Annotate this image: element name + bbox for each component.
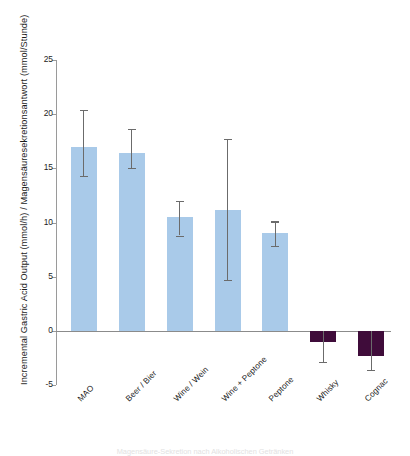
y-tick-label: 0 bbox=[48, 325, 53, 335]
y-tick-label: 5 bbox=[48, 271, 53, 281]
y-tick-label: 25 bbox=[44, 54, 53, 64]
x-axis-label: Beer / Bier bbox=[124, 369, 158, 403]
error-bar bbox=[83, 110, 84, 176]
error-bar-cap bbox=[367, 370, 375, 371]
x-axis-label: Wine / Wein bbox=[172, 365, 210, 403]
x-axis-label: Whisky bbox=[315, 378, 340, 403]
bar bbox=[119, 153, 145, 331]
x-axis-label: Cognac bbox=[363, 377, 390, 404]
y-axis-label: Incremental Gastric Acid Output (mmol/h)… bbox=[19, 45, 29, 385]
error-bar-cap bbox=[271, 246, 279, 247]
y-axis-line bbox=[56, 60, 57, 385]
error-bar-cap bbox=[128, 168, 136, 169]
error-bar-cap bbox=[224, 280, 232, 281]
x-axis-label: Peptone bbox=[267, 375, 295, 403]
error-bar-cap bbox=[80, 176, 88, 177]
chart-container: Incremental Gastric Acid Output (mmol/h)… bbox=[0, 0, 410, 456]
error-bar bbox=[179, 201, 180, 236]
error-bar bbox=[227, 139, 228, 280]
y-tick-label: 20 bbox=[44, 108, 53, 118]
error-bar bbox=[275, 221, 276, 246]
error-bar-cap bbox=[176, 201, 184, 202]
error-bar-cap bbox=[128, 129, 136, 130]
zero-baseline bbox=[56, 331, 391, 332]
bar bbox=[262, 233, 288, 331]
y-tick-label: 15 bbox=[44, 162, 53, 172]
x-axis-label: MAO bbox=[76, 384, 96, 404]
error-bar bbox=[323, 331, 324, 362]
plot-area: 2520151050-5 MAOBeer / BierWine / WeinWi… bbox=[56, 60, 391, 385]
error-bar-cap bbox=[176, 236, 184, 237]
y-tick-label: 10 bbox=[44, 217, 53, 227]
footnote-text: Magensäure-Sekretion nach Alkoholischen … bbox=[0, 447, 410, 456]
error-bar-cap bbox=[319, 362, 327, 363]
error-bar-cap bbox=[80, 110, 88, 111]
error-bar bbox=[131, 129, 132, 168]
y-tick-label: -5 bbox=[46, 379, 53, 389]
error-bar-cap bbox=[271, 221, 279, 222]
error-bar bbox=[371, 331, 372, 370]
x-axis-label: Wine + Peptone bbox=[220, 355, 269, 404]
error-bar-cap bbox=[224, 139, 232, 140]
